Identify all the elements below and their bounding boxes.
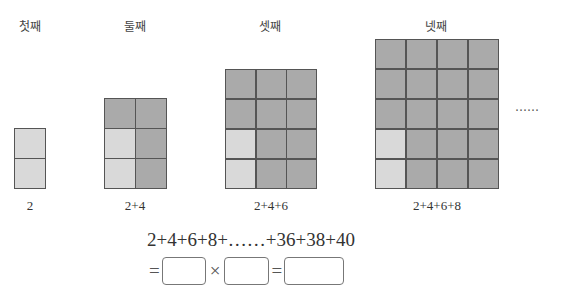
grid-cell: [469, 100, 498, 128]
equals-sign-2: =: [271, 260, 282, 282]
grid-cell: [257, 160, 286, 188]
grid-cell: [257, 100, 286, 128]
grid-cell: [438, 40, 467, 68]
grid-cell: [136, 99, 166, 128]
equals-sign: =: [149, 260, 160, 282]
grid-cell: [469, 70, 498, 98]
figure-4-grid: [375, 39, 499, 189]
grid-cell: [136, 159, 166, 188]
grid-cell: [226, 130, 255, 158]
figure-3-grid: [225, 69, 317, 189]
grid-cell: [287, 70, 316, 98]
grid-cell: [376, 130, 405, 158]
grid-cell: [438, 160, 467, 188]
figure-3-title: 셋째: [230, 17, 310, 34]
figure-2-grid: [104, 98, 167, 189]
answer-box-2[interactable]: [224, 257, 269, 285]
figure-2-sum: 2+4: [75, 198, 195, 214]
figure-2-title: 둘째: [95, 17, 175, 34]
grid-cell: [287, 160, 316, 188]
grid-cell: [407, 160, 436, 188]
grid-cell: [438, 70, 467, 98]
answer-box-1[interactable]: [162, 257, 206, 285]
grid-cell: [136, 129, 166, 158]
figure-1-title: 첫째: [0, 17, 70, 34]
grid-cell: [105, 99, 135, 128]
grid-cell: [438, 130, 467, 158]
figure-3-sum: 2+4+6: [211, 198, 331, 214]
grid-cell: [257, 70, 286, 98]
grid-cell: [469, 40, 498, 68]
grid-cell: [105, 129, 135, 158]
sum-expression: 2+4+6+8+……+36+38+40: [147, 229, 355, 251]
grid-cell: [15, 159, 45, 188]
grid-cell: [407, 40, 436, 68]
grid-cell: [407, 100, 436, 128]
grid-cell: [376, 70, 405, 98]
continuation-ellipsis: ……: [515, 100, 539, 114]
grid-cell: [105, 159, 135, 188]
grid-cell: [226, 100, 255, 128]
grid-cell: [226, 70, 255, 98]
figure-4-sum: 2+4+6+8: [377, 198, 497, 214]
grid-cell: [376, 100, 405, 128]
figure-4-title: 넷째: [396, 17, 476, 34]
grid-cell: [15, 129, 45, 158]
grid-cell: [287, 130, 316, 158]
answer-row: = × =: [147, 256, 344, 286]
answer-box-3[interactable]: [284, 257, 344, 285]
grid-cell: [376, 160, 405, 188]
grid-cell: [469, 160, 498, 188]
grid-cell: [469, 130, 498, 158]
times-sign: ×: [210, 260, 221, 282]
figure-1-grid: [14, 128, 46, 189]
grid-cell: [226, 160, 255, 188]
grid-cell: [407, 130, 436, 158]
grid-cell: [257, 130, 286, 158]
grid-cell: [438, 100, 467, 128]
grid-cell: [376, 40, 405, 68]
grid-cell: [407, 70, 436, 98]
grid-cell: [287, 100, 316, 128]
